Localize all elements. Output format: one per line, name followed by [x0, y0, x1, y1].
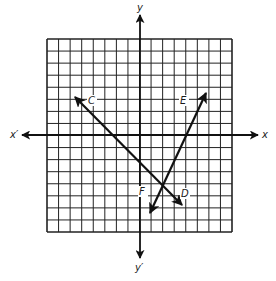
y-axis-positive-label: y [136, 2, 144, 13]
label-e: E [180, 95, 187, 106]
line-c-d [75, 97, 182, 205]
x-axis-positive-label: x [261, 129, 268, 140]
y-axis-negative-label: y′ [134, 262, 144, 273]
label-d: D [181, 188, 189, 199]
label-c: C [88, 95, 95, 106]
x-axis-negative-label: x′ [9, 129, 19, 140]
coordinate-diagram: x x′ y y′ C E F D [0, 0, 276, 281]
label-f: F [139, 186, 145, 197]
